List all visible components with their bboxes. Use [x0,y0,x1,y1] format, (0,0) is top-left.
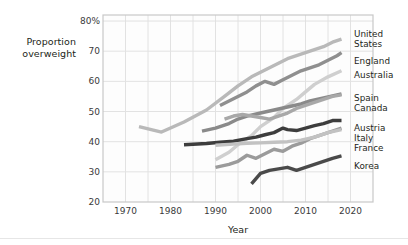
x-tick-label: 2020 [339,206,362,216]
x-tick-label: 2010 [294,206,317,216]
x-tick-label: 1970 [114,206,137,216]
x-axis-ticks: 197019801990200020102020 [0,0,408,245]
legend-label-korea: Korea [354,162,379,172]
chart-figure: Proportion overweight 20304050607080% 19… [0,0,408,245]
x-axis-title: Year [103,224,373,235]
x-tick-label: 1980 [159,206,182,216]
legend-label-england: England [354,57,390,67]
legend-label-united-states: United States [354,30,383,49]
x-tick-label: 2000 [249,206,272,216]
x-tick-label: 1990 [204,206,227,216]
legend-label-australia: Australia [354,71,393,81]
legend-label-france: France [354,144,384,154]
bottom-divider [0,238,408,239]
legend-label-canada: Canada [354,104,388,114]
